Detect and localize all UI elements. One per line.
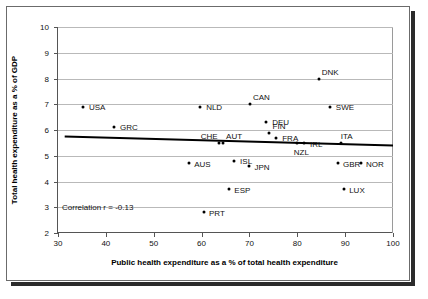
y-tick-label: 3 bbox=[29, 203, 49, 212]
y-tick-mark bbox=[54, 156, 58, 157]
data-point-label: SWE bbox=[336, 103, 354, 112]
y-tick-label: 7 bbox=[29, 100, 49, 109]
gridline-y bbox=[58, 79, 393, 80]
gridline-y bbox=[58, 53, 393, 54]
data-point bbox=[188, 162, 191, 165]
data-point-label: GRC bbox=[120, 123, 138, 132]
y-tick-mark bbox=[54, 207, 58, 208]
x-axis-label: Public health expenditure as a % of tota… bbox=[57, 258, 392, 267]
data-point bbox=[359, 162, 362, 165]
y-tick-mark bbox=[54, 27, 58, 28]
data-point bbox=[343, 188, 346, 191]
data-point-label: GBR bbox=[343, 160, 360, 169]
y-tick-mark bbox=[54, 79, 58, 80]
chart-figure: Total health expenditure as a % of GDP 2… bbox=[0, 0, 428, 299]
y-axis-label: Total health expenditure as a % of GDP bbox=[10, 56, 19, 204]
y-tick-label: 9 bbox=[29, 48, 49, 57]
data-point-label: JPN bbox=[254, 163, 269, 172]
figure-shadow-right bbox=[411, 11, 415, 286]
gridline-y bbox=[58, 182, 393, 183]
y-tick-label: 4 bbox=[29, 177, 49, 186]
y-tick-label: 5 bbox=[29, 151, 49, 160]
gridline-y bbox=[58, 156, 393, 157]
data-point bbox=[233, 159, 236, 162]
data-point bbox=[328, 105, 331, 108]
x-tick-label: 40 bbox=[101, 239, 110, 248]
data-point bbox=[112, 126, 115, 129]
data-point-label: IRL bbox=[310, 140, 322, 149]
x-tick-label: 50 bbox=[149, 239, 158, 248]
x-tick-label: 70 bbox=[245, 239, 254, 248]
data-point bbox=[81, 105, 84, 108]
y-tick-mark bbox=[54, 182, 58, 183]
data-point-label: DNK bbox=[322, 68, 339, 77]
data-point bbox=[267, 131, 270, 134]
x-tick-mark bbox=[106, 233, 107, 237]
figure-shadow-bottom bbox=[11, 282, 415, 286]
x-tick-label: 100 bbox=[386, 239, 399, 248]
y-tick-mark bbox=[54, 53, 58, 54]
data-point-label: AUS bbox=[194, 160, 210, 169]
data-point bbox=[228, 188, 231, 191]
x-tick-mark bbox=[249, 233, 250, 237]
data-point bbox=[317, 77, 320, 80]
x-tick-mark bbox=[345, 233, 346, 237]
data-point-label: USA bbox=[89, 103, 105, 112]
data-point bbox=[199, 105, 202, 108]
y-tick-mark bbox=[54, 104, 58, 105]
data-point bbox=[339, 141, 342, 144]
x-tick-mark bbox=[202, 233, 203, 237]
y-tick-mark bbox=[54, 130, 58, 131]
y-tick-label: 8 bbox=[29, 74, 49, 83]
x-tick-mark bbox=[154, 233, 155, 237]
x-tick-label: 80 bbox=[293, 239, 302, 248]
data-point bbox=[248, 165, 251, 168]
data-point-label: FIN bbox=[273, 122, 286, 131]
data-point-label: CHE bbox=[201, 132, 218, 141]
data-point bbox=[302, 141, 305, 144]
gridline-y bbox=[58, 130, 393, 131]
x-tick-label: 90 bbox=[341, 239, 350, 248]
y-tick-label: 2 bbox=[29, 229, 49, 238]
data-point bbox=[248, 103, 251, 106]
data-point bbox=[217, 141, 220, 144]
data-point bbox=[202, 211, 205, 214]
data-point-label: NOR bbox=[366, 160, 384, 169]
y-tick-label: 10 bbox=[29, 23, 49, 32]
x-tick-label: 60 bbox=[197, 239, 206, 248]
x-tick-mark bbox=[58, 233, 59, 237]
data-point-label: NZL bbox=[294, 148, 309, 157]
data-point-label: CAN bbox=[253, 93, 270, 102]
y-tick-label: 6 bbox=[29, 126, 49, 135]
data-point bbox=[336, 162, 339, 165]
data-point-label: AUT bbox=[226, 132, 242, 141]
data-point-label: PRT bbox=[209, 209, 225, 218]
data-point-label: LUX bbox=[349, 186, 365, 195]
x-tick-mark bbox=[393, 233, 394, 237]
data-point bbox=[275, 136, 278, 139]
correlation-annotation: Correlation r = -0.13 bbox=[62, 203, 133, 212]
data-point bbox=[295, 141, 298, 144]
data-point-label: NLD bbox=[206, 103, 222, 112]
data-point-label: ESP bbox=[234, 186, 250, 195]
data-point bbox=[265, 121, 268, 124]
gridline-y bbox=[58, 27, 393, 28]
data-point-label: ITA bbox=[341, 132, 353, 141]
y-axis-label-wrap: Total health expenditure as a % of GDP bbox=[6, 27, 22, 233]
data-point bbox=[222, 141, 225, 144]
x-tick-mark bbox=[297, 233, 298, 237]
x-tick-label: 30 bbox=[54, 239, 63, 248]
